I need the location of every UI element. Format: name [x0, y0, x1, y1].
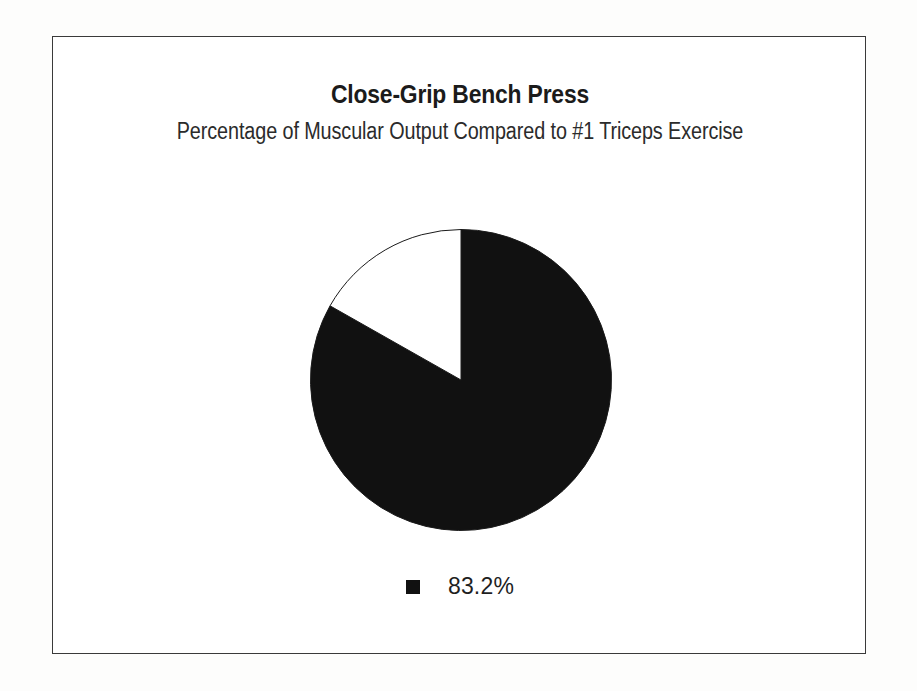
chart-page: Close-Grip Bench Press Percentage of Mus… — [0, 0, 917, 691]
pie-chart — [309, 228, 613, 532]
chart-frame: Close-Grip Bench Press Percentage of Mus… — [52, 36, 866, 654]
legend-item-label: 83.2% — [448, 573, 514, 600]
chart-subtitle: Percentage of Muscular Output Compared t… — [110, 118, 810, 145]
chart-title: Close-Grip Bench Press — [102, 79, 818, 110]
pie-chart-svg — [309, 228, 613, 532]
legend-swatch-icon — [406, 580, 420, 594]
pie-slice-group — [311, 230, 612, 531]
legend-item: 83.2% — [406, 573, 514, 600]
chart-legend: 83.2% — [53, 573, 867, 600]
